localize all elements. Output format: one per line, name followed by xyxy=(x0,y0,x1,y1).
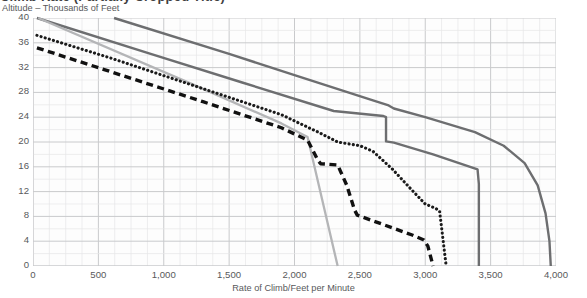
x-axis-title: Rate of Climb/Feet per Minute xyxy=(0,283,587,293)
x-tick-label: 3,000 xyxy=(395,269,455,280)
x-tick-label: 2,000 xyxy=(265,269,325,280)
x-tick-label: 1,000 xyxy=(134,269,194,280)
x-tick-label: 3,500 xyxy=(461,269,521,280)
x-tick-label: 1,500 xyxy=(199,269,259,280)
x-tick-label: 500 xyxy=(68,269,128,280)
x-tick-label: 4,000 xyxy=(526,269,586,280)
climb-rate-chart: Climb Rate (Partially Cropped Title) Alt… xyxy=(0,0,587,298)
x-tick-label: 0 xyxy=(3,269,63,280)
x-tick-label: 2,500 xyxy=(330,269,390,280)
x-axis-ticks: 05001,0001,5002,0002,5003,0003,5004,000 xyxy=(0,0,587,298)
